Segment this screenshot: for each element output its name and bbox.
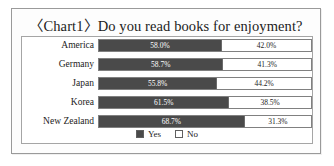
plot-area: America58.0%42.0%Germany58.7%41.3%Japan5… (21, 36, 313, 144)
bar-segment-yes: 61.5% (99, 97, 229, 108)
chart-figure: 〈Chart1〉Do you read books for enjoyment?… (11, 8, 321, 154)
bar-segment-yes: 58.0% (99, 40, 222, 51)
bar-segment-no: 41.3% (223, 59, 311, 70)
bar-row: Germany58.7%41.3% (22, 58, 312, 71)
category-label: America (22, 39, 98, 52)
outlined-white-square-swatch (175, 130, 183, 138)
chart-legend: YesNo (22, 129, 312, 139)
bar-segment-no: 44.2% (217, 78, 311, 89)
bar-row: America58.0%42.0% (22, 39, 312, 52)
category-label: Germany (22, 58, 98, 71)
stacked-bar: 58.7%41.3% (98, 58, 312, 71)
category-label: Korea (22, 96, 98, 109)
bar-segment-no: 42.0% (222, 40, 311, 51)
category-label: Japan (22, 77, 98, 90)
bar-segment-no: 38.5% (229, 97, 311, 108)
stacked-bar: 58.0%42.0% (98, 39, 312, 52)
legend-label: No (187, 129, 198, 139)
bar-row: New Zealand68.7%31.3% (22, 115, 312, 128)
filled-dark-square-swatch (136, 130, 144, 138)
bar-row: Korea61.5%38.5% (22, 96, 312, 109)
bar-rows: America58.0%42.0%Germany58.7%41.3%Japan5… (22, 39, 312, 134)
bar-segment-yes: 55.8% (99, 78, 217, 89)
bar-row: Japan55.8%44.2% (22, 77, 312, 90)
bar-segment-yes: 58.7% (99, 59, 223, 70)
stacked-bar: 61.5%38.5% (98, 96, 312, 109)
bar-segment-no: 31.3% (245, 116, 311, 127)
legend-label: Yes (148, 129, 161, 139)
legend-item: Yes (136, 129, 161, 139)
legend-item: No (175, 129, 198, 139)
stacked-bar: 68.7%31.3% (98, 115, 312, 128)
category-label: New Zealand (22, 115, 98, 128)
bar-segment-yes: 68.7% (99, 116, 245, 127)
chart-title: 〈Chart1〉Do you read books for enjoyment? (12, 14, 320, 35)
stacked-bar: 55.8%44.2% (98, 77, 312, 90)
